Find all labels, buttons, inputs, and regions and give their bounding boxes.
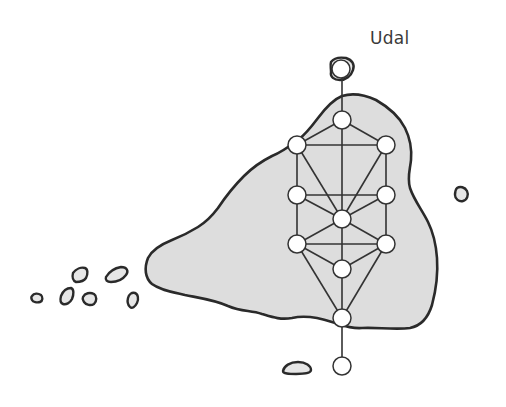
west-islet-3 <box>73 268 88 282</box>
node-9 <box>333 260 351 278</box>
node-4 <box>288 186 306 204</box>
west-islet-4 <box>83 293 97 305</box>
east-islet <box>455 187 468 201</box>
island-map-svg <box>0 0 506 407</box>
node-2 <box>288 136 306 154</box>
island-label: Udal <box>370 28 410 48</box>
node-3 <box>377 136 395 154</box>
west-islet-2 <box>60 288 73 304</box>
node-7 <box>288 235 306 253</box>
main-island <box>146 95 438 329</box>
node-5 <box>377 186 395 204</box>
west-islet-6 <box>128 293 138 308</box>
node-8 <box>377 235 395 253</box>
node-10 <box>333 309 351 327</box>
south-islet <box>283 362 311 374</box>
node-11 <box>333 357 351 375</box>
west-islet-5 <box>106 267 128 282</box>
node-6 <box>333 210 351 228</box>
node-1 <box>333 111 351 129</box>
node-0 <box>332 60 350 78</box>
west-islet-1 <box>31 294 42 303</box>
